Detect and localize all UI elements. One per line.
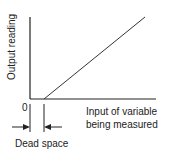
response-line: [44, 17, 145, 99]
origin-label: 0: [22, 102, 28, 114]
right-arrowhead: [44, 124, 51, 130]
diagram-canvas: [0, 0, 169, 157]
x-axis-label-line1: Input of variable: [86, 106, 157, 118]
x-axis-label-line2: being measured: [86, 119, 158, 131]
left-arrowhead: [23, 124, 30, 130]
dead-space-label: Dead space: [15, 138, 68, 150]
y-axis-label: Output reading: [6, 14, 18, 80]
